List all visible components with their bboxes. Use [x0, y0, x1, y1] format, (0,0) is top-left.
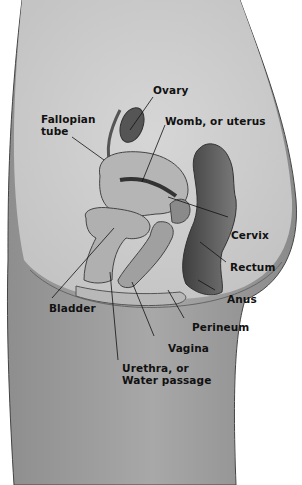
label-cervix: Cervix [231, 229, 269, 241]
label-rectum: Rectum [230, 261, 275, 273]
label-vagina: Vagina [168, 342, 209, 354]
label-ovary: Ovary [153, 84, 188, 96]
label-urethra: Urethra, orWater passage [122, 362, 211, 386]
label-perineum: Perineum [192, 321, 249, 333]
diagram-artwork [0, 0, 302, 485]
anatomy-diagram: Ovary Fallopiantube Womb, or uterus Cerv… [0, 0, 302, 485]
label-fallopian-tube: Fallopiantube [41, 113, 96, 137]
label-anus: Anus [227, 293, 257, 305]
label-womb: Womb, or uterus [165, 115, 266, 127]
label-bladder: Bladder [49, 302, 96, 314]
